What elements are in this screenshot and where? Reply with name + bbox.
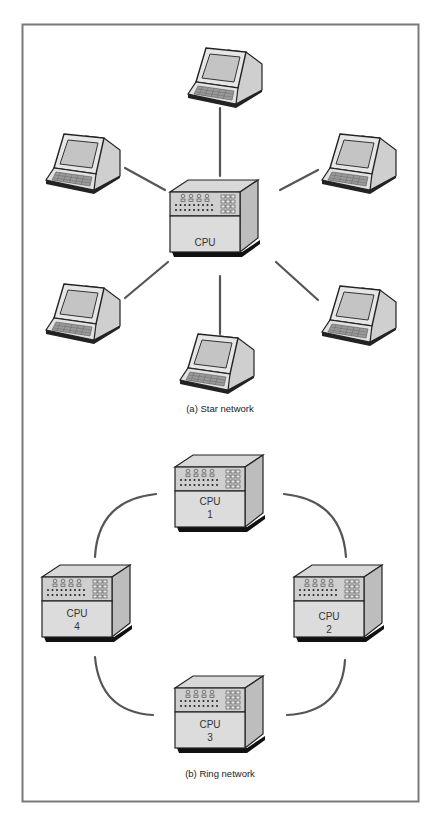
ring-cpu-3: CPU 3 bbox=[175, 676, 265, 753]
caption-ring-network: (b) Ring network bbox=[185, 768, 255, 779]
cpu-4-number: 4 bbox=[74, 621, 80, 632]
star-cpu: CPU bbox=[170, 180, 260, 257]
star-cpu-label: CPU bbox=[194, 237, 215, 248]
cpu-icon bbox=[42, 565, 132, 642]
cpu-icon bbox=[175, 455, 265, 532]
cpu-1-label: CPU bbox=[199, 496, 220, 507]
cpu-3-label: CPU bbox=[199, 719, 220, 730]
cpu-4-label: CPU bbox=[66, 608, 87, 619]
ring-cpu-4: CPU 4 bbox=[42, 565, 132, 642]
cpu-2-number: 2 bbox=[326, 624, 332, 635]
ring-cpu-1: CPU 1 bbox=[175, 455, 265, 532]
cpu-2-label: CPU bbox=[318, 611, 339, 622]
cpu-icon bbox=[294, 565, 384, 642]
cpu-3-number: 3 bbox=[207, 732, 213, 743]
network-topology-figure: CPU (a) Star network CPU 1 CPU 4 CPU bbox=[0, 0, 441, 818]
cpu-1-number: 1 bbox=[207, 509, 213, 520]
caption-star-network: (a) Star network bbox=[186, 403, 254, 414]
cpu-icon bbox=[175, 676, 265, 753]
ring-cpu-2: CPU 2 bbox=[294, 565, 384, 642]
